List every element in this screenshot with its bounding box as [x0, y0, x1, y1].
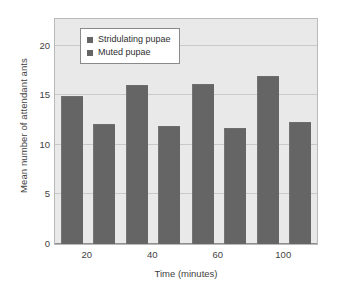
bar [257, 76, 279, 245]
bar [192, 84, 214, 244]
bar [126, 85, 148, 244]
legend-swatch-icon [87, 37, 93, 43]
x-tick-label: 20 [81, 249, 92, 261]
y-tick-label: 5 [28, 189, 50, 199]
legend-label: Muted pupae [98, 47, 151, 58]
x-tick-label: 40 [147, 249, 158, 261]
legend-item: Muted pupae [87, 46, 171, 59]
bar [158, 126, 180, 244]
bar [289, 122, 311, 244]
x-tick-label: 100 [275, 249, 291, 261]
x-tick-label: 60 [212, 249, 223, 261]
y-tick-label: 10 [28, 140, 50, 150]
chart-legend: Stridulating pupaeMuted pupae [80, 28, 180, 64]
legend-item: Stridulating pupae [87, 33, 171, 46]
y-tick-label: 20 [28, 41, 50, 51]
y-tick-label: 15 [28, 90, 50, 100]
legend-label: Stridulating pupae [98, 34, 171, 45]
bar [224, 128, 246, 244]
legend-swatch-icon [87, 50, 93, 56]
y-tick-label: 0 [28, 239, 50, 249]
bar [93, 124, 115, 244]
x-axis-title: Time (minutes) [54, 268, 318, 279]
x-axis-tick-labels: 204060100 [54, 249, 318, 263]
bar-chart-figure: Mean number of attendant ants 05101520 2… [0, 0, 341, 295]
bar [61, 96, 83, 244]
y-axis-tick-labels: 05101520 [28, 0, 50, 295]
